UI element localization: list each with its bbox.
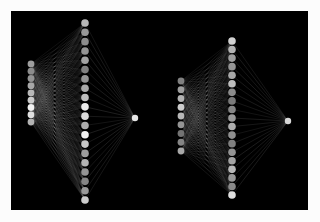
network-node bbox=[228, 89, 236, 97]
network-node bbox=[28, 75, 35, 82]
network-node bbox=[228, 131, 236, 139]
network-node bbox=[81, 47, 89, 55]
network-node bbox=[228, 157, 236, 165]
network-node bbox=[228, 148, 236, 156]
canvas-background bbox=[11, 11, 308, 210]
network-node bbox=[28, 104, 35, 111]
network-node bbox=[81, 187, 89, 195]
network-node bbox=[28, 111, 35, 118]
network-node bbox=[81, 84, 89, 92]
network-node bbox=[81, 178, 89, 186]
network-node bbox=[81, 150, 89, 158]
network-node bbox=[178, 130, 185, 137]
network-node bbox=[228, 140, 236, 148]
network-diagram-svg bbox=[11, 11, 308, 210]
network-node bbox=[178, 104, 185, 111]
network-node bbox=[81, 19, 89, 27]
network-node bbox=[81, 56, 89, 64]
network-node bbox=[81, 196, 89, 204]
network-node bbox=[228, 80, 236, 88]
network-node bbox=[28, 97, 35, 104]
network-node bbox=[228, 123, 236, 131]
network-node bbox=[81, 38, 89, 46]
network-node bbox=[28, 90, 35, 97]
network-node bbox=[178, 148, 185, 155]
network-node bbox=[81, 168, 89, 176]
network-node bbox=[81, 112, 89, 120]
network-node bbox=[81, 75, 89, 83]
network-node bbox=[28, 61, 35, 68]
network-node bbox=[228, 166, 236, 174]
network-node bbox=[178, 113, 185, 120]
network-node bbox=[81, 94, 89, 102]
network-node bbox=[228, 183, 236, 191]
network-node bbox=[28, 68, 35, 75]
network-node bbox=[81, 140, 89, 148]
network-node bbox=[228, 106, 236, 114]
figure-root: Neural network architecture diagram bbox=[0, 0, 320, 222]
network-node bbox=[228, 63, 236, 71]
network-node bbox=[81, 29, 89, 37]
network-node bbox=[81, 66, 89, 74]
network-node bbox=[228, 174, 236, 182]
network-node bbox=[178, 78, 185, 85]
network-node bbox=[81, 131, 89, 139]
network-node bbox=[228, 97, 236, 105]
network-node bbox=[228, 114, 236, 122]
network-node bbox=[228, 71, 236, 79]
network-node bbox=[228, 54, 236, 62]
network-node bbox=[178, 139, 185, 146]
network-node bbox=[178, 121, 185, 128]
network-node bbox=[81, 122, 89, 130]
network-canvas bbox=[11, 11, 308, 210]
network-node bbox=[132, 115, 138, 121]
network-node bbox=[178, 86, 185, 93]
network-node bbox=[228, 37, 236, 45]
network-node bbox=[28, 82, 35, 89]
network-node bbox=[285, 118, 291, 124]
network-node bbox=[228, 46, 236, 54]
network-node bbox=[178, 95, 185, 102]
network-node bbox=[228, 191, 236, 199]
network-node bbox=[81, 103, 89, 111]
network-node bbox=[28, 119, 35, 126]
network-node bbox=[81, 159, 89, 167]
